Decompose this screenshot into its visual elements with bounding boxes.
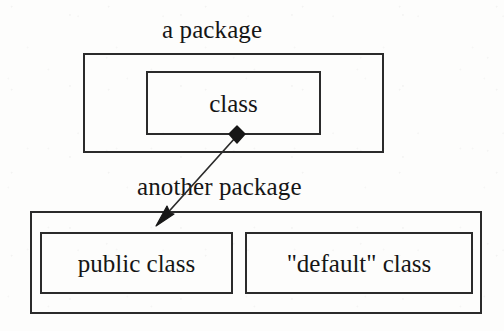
package-label-another-package: another package	[137, 174, 302, 199]
class-box-class: class	[146, 71, 321, 135]
class-label-class: class	[209, 91, 258, 116]
uml-package-diagram: a package class another package public c…	[0, 0, 504, 331]
class-box-default-class: "default" class	[245, 232, 473, 294]
class-label-default-class: "default" class	[287, 251, 432, 276]
class-label-public-class: public class	[78, 251, 195, 276]
package-label-a-package: a package	[162, 17, 262, 42]
class-box-public-class: public class	[40, 232, 233, 294]
